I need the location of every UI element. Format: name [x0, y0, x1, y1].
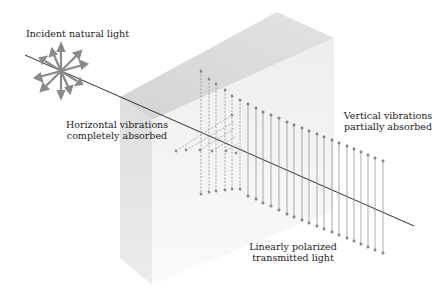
- label-horizontal-line2: completely absorbed: [60, 130, 174, 141]
- label-incident-light: Incident natural light: [26, 28, 129, 39]
- label-transmitted-line2: transmitted light: [245, 252, 341, 263]
- natural-light-arrows-icon: [35, 44, 87, 98]
- label-vertical-vibrations: Vertical vibrations partially absorbed: [334, 110, 442, 132]
- label-horizontal-line1: Horizontal vibrations: [60, 119, 174, 130]
- polarizer-diagram: Incident natural light Horizontal vibrat…: [0, 0, 444, 295]
- label-transmitted-light: Linearly polarized transmitted light: [245, 241, 341, 263]
- label-horizontal-vibrations: Horizontal vibrations completely absorbe…: [60, 119, 174, 141]
- label-transmitted-line1: Linearly polarized: [245, 241, 341, 252]
- label-vertical-line1: Vertical vibrations: [334, 110, 442, 121]
- diagram-canvas: [0, 0, 444, 295]
- label-vertical-line2: partially absorbed: [334, 121, 442, 132]
